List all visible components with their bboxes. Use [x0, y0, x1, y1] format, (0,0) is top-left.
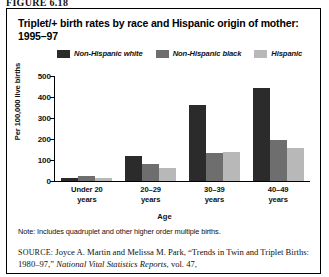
bar: [95, 178, 112, 181]
y-tick-label: 500: [27, 72, 51, 81]
y-axis-tick-mark: [50, 76, 54, 77]
bar: [159, 168, 176, 181]
y-tick-label: 300: [27, 114, 51, 123]
bar: [78, 176, 95, 181]
x-tick-label: Under 20years: [55, 185, 119, 204]
y-axis-tick-mark: [50, 139, 54, 140]
y-tick-label: 0: [27, 177, 51, 186]
bar-groups: [55, 76, 310, 181]
y-axis-tick-mark: [50, 97, 54, 98]
y-tick-label: 200: [27, 135, 51, 144]
source-label: SOURCE:: [18, 248, 53, 257]
y-tick-label: 400: [27, 93, 51, 102]
x-axis-line: [54, 181, 310, 182]
bar: [142, 164, 159, 181]
y-tick-label: 100: [27, 156, 51, 165]
x-axis-tick-labels: Under 20years20–29years30–39years40–49ye…: [55, 185, 310, 204]
bar-group: [246, 76, 310, 181]
chart-note: Note: Includes quadruplet and other high…: [18, 227, 313, 236]
bar-group: [183, 76, 247, 181]
x-tick-label: 30–39years: [183, 185, 247, 204]
y-axis-title: Per 100,000 live births: [13, 56, 22, 148]
x-tick-label: 20–29years: [119, 185, 183, 204]
figure-page: FIGURE 6.18 Triplet/+ birth rates by rac…: [0, 0, 329, 277]
source-text-part2: , vol. 47,: [167, 259, 197, 269]
bar-group: [55, 76, 119, 181]
bar: [253, 88, 270, 181]
bar: [125, 156, 142, 181]
y-axis-tick-mark: [50, 160, 54, 161]
x-axis-title: Age: [7, 212, 321, 221]
bar: [287, 148, 304, 181]
bar: [206, 153, 223, 181]
bar: [61, 178, 78, 181]
figure-box: Triplet/+ birth rates by race and Hispan…: [6, 8, 321, 274]
y-axis-tick-mark: [50, 181, 54, 182]
chart-source: SOURCE: Joyce A. Martin and Melissa M. P…: [18, 247, 314, 269]
y-axis-tick-mark: [50, 118, 54, 119]
source-publication: National Vital Statistics Reports: [56, 259, 166, 269]
x-tick-label: 40–49years: [246, 185, 310, 204]
bar-group: [119, 76, 183, 181]
figure-number: FIGURE 6.18: [6, 0, 68, 8]
bar: [189, 105, 206, 181]
bar: [270, 140, 287, 181]
bar: [223, 152, 240, 181]
